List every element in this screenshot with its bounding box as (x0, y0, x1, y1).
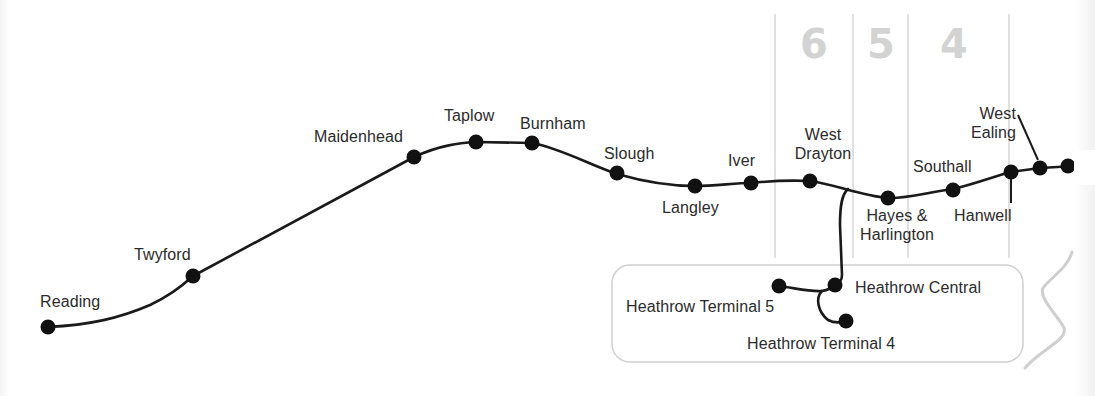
edge-mask (1074, 150, 1095, 185)
map-graphics (0, 0, 1095, 396)
station-label-slough: Slough (604, 144, 654, 163)
station-dot-reading[interactable] (41, 320, 56, 335)
station-dot-heathrow-terminal-5[interactable] (772, 279, 787, 294)
rail-route-map: 6 5 4 Reading Twyford Maidenhead Taplow … (0, 0, 1095, 396)
station-dot-burnham[interactable] (525, 136, 540, 151)
station-label-reading: Reading (40, 292, 100, 311)
station-dot-iver[interactable] (744, 176, 759, 191)
station-label-twyford: Twyford (134, 245, 191, 264)
station-dot-hanwell[interactable] (1004, 165, 1019, 180)
station-label-maidenhead: Maidenhead (314, 127, 403, 146)
west-ealing-leader-line (1018, 115, 1038, 160)
zone-number-4: 4 (940, 22, 968, 66)
station-dot-heathrow-central[interactable] (828, 278, 843, 293)
station-label-langley: Langley (662, 198, 719, 217)
station-label-taplow: Taplow (444, 106, 494, 125)
station-label-hayes-harlington: Hayes & Harlington (852, 206, 942, 244)
station-label-burnham: Burnham (520, 114, 586, 133)
zone-number-6: 6 (800, 22, 828, 66)
station-dot-next[interactable] (1061, 159, 1076, 174)
station-dot-west-ealing[interactable] (1033, 161, 1048, 176)
station-dot-hayes-harlington[interactable] (881, 191, 896, 206)
station-dot-maidenhead[interactable] (407, 150, 422, 165)
station-label-heathrow-terminal-5: Heathrow Terminal 5 (626, 297, 774, 316)
station-label-west-ealing: West Ealing (962, 104, 1016, 142)
station-dot-taplow[interactable] (469, 135, 484, 150)
station-label-iver: Iver (728, 151, 755, 170)
station-label-southall: Southall (913, 157, 972, 176)
station-label-heathrow-terminal-4: Heathrow Terminal 4 (747, 334, 895, 353)
station-dot-langley[interactable] (688, 179, 703, 194)
station-label-hanwell: Hanwell (954, 206, 1012, 225)
station-dot-slough[interactable] (610, 166, 625, 181)
zone-number-5: 5 (867, 22, 895, 66)
station-dot-west-drayton[interactable] (803, 174, 818, 189)
boundary-squiggle (1025, 252, 1072, 368)
station-label-heathrow-central: Heathrow Central (855, 278, 981, 297)
station-dot-heathrow-terminal-4[interactable] (839, 314, 854, 329)
station-label-west-drayton: West Drayton (781, 125, 865, 163)
station-dot-twyford[interactable] (186, 269, 201, 284)
station-dot-southall[interactable] (946, 183, 961, 198)
